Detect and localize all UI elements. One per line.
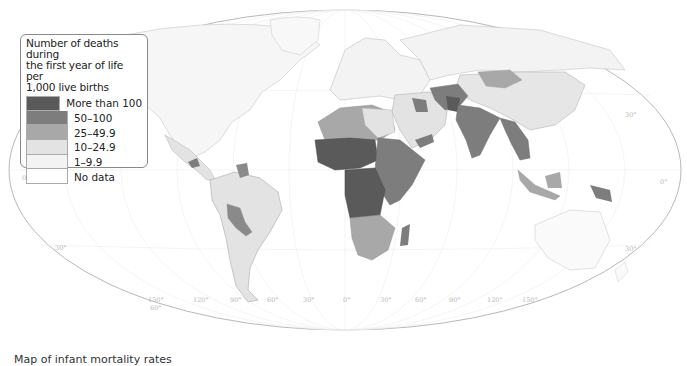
- legend-swatch: [26, 140, 68, 155]
- lat-label: 30°: [625, 111, 637, 119]
- lon-label: 90°: [230, 296, 242, 304]
- lon-label: 60°: [415, 296, 427, 304]
- legend-label: More than 100: [66, 97, 142, 109]
- lon-label: 0°: [343, 296, 350, 304]
- lon-label: 120°: [193, 296, 209, 304]
- lon-label: 60°: [267, 296, 279, 304]
- lon-label: 30°: [303, 296, 315, 304]
- legend-label: No data: [74, 171, 115, 183]
- legend-item: 50–100: [26, 111, 142, 126]
- legend-swatch: [26, 125, 68, 140]
- legend-swatch: [26, 96, 60, 111]
- legend-item: 10–24.9: [26, 140, 142, 155]
- lon-label: 30°: [380, 296, 392, 304]
- legend-label: 10–24.9: [74, 141, 116, 153]
- legend-item: 1–9.9: [26, 155, 142, 170]
- legend-items: More than 100 50–100 25–49.9 10–24.9 1–9…: [26, 96, 142, 184]
- caption-cut-off: Map of infant mortality rates: [14, 353, 172, 366]
- legend-swatch: [26, 169, 68, 184]
- lon-label: 90°: [449, 296, 461, 304]
- lat-label: 60°: [150, 304, 162, 312]
- lon-label: 150°: [148, 296, 164, 304]
- legend-swatch: [26, 155, 68, 170]
- lon-label: 150°: [522, 296, 538, 304]
- legend-label: 1–9.9: [74, 156, 102, 168]
- lat-label: 30°: [55, 244, 67, 252]
- lon-label: 120°: [487, 296, 503, 304]
- region-new-zealand: [615, 262, 628, 282]
- legend-swatch: [26, 111, 68, 126]
- lat-label: 0°: [660, 178, 667, 186]
- legend-label: 25–49.9: [74, 127, 116, 139]
- legend-label: 50–100: [74, 112, 112, 124]
- map-legend: Number of deaths during the first year o…: [20, 34, 148, 168]
- lat-label: 30°: [625, 245, 637, 253]
- legend-item: 25–49.9: [26, 125, 142, 140]
- legend-title: Number of deaths during the first year o…: [26, 38, 142, 93]
- legend-title-line: the first year of life per: [26, 60, 142, 82]
- legend-title-line: 1,000 live births: [26, 82, 142, 93]
- legend-item: More than 100: [26, 96, 142, 111]
- legend-item: No data: [26, 169, 142, 184]
- legend-title-line: Number of deaths during: [26, 38, 142, 60]
